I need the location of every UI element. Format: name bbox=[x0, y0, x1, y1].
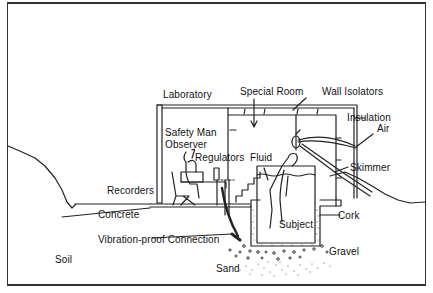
ground-left-hill bbox=[8, 146, 150, 208]
label-regulators: Regulators bbox=[195, 153, 244, 163]
label-special-room: Special Room bbox=[240, 87, 303, 97]
label-air: Air bbox=[377, 124, 390, 134]
sand-dots bbox=[240, 262, 331, 277]
desk bbox=[181, 172, 203, 182]
label-insulation: Insulation bbox=[347, 113, 391, 123]
label-laboratory: Laboratory bbox=[163, 90, 212, 100]
chair bbox=[172, 172, 195, 205]
subject-figure bbox=[270, 154, 297, 229]
label-fluid: Fluid bbox=[250, 153, 272, 163]
label-gravel: Gravel bbox=[329, 247, 359, 257]
label-sand: Sand bbox=[216, 264, 240, 274]
regulators-box bbox=[214, 168, 219, 180]
label-wall-isolators: Wall Isolators bbox=[322, 87, 383, 97]
label-safety-man: Safety Man bbox=[165, 128, 217, 138]
gravel-sand bbox=[229, 245, 328, 261]
label-recorders: Recorders bbox=[107, 186, 154, 196]
tank-inner bbox=[257, 166, 315, 243]
label-cork: Cork bbox=[338, 211, 360, 221]
isolation-tank-diagram bbox=[0, 0, 433, 293]
label-observer: Observer bbox=[165, 140, 207, 150]
label-subject: Subject bbox=[279, 220, 313, 230]
ground-right-hill bbox=[330, 172, 425, 203]
label-vibration-proof-connection: Vibration-proof Connection bbox=[98, 235, 219, 245]
label-soil: Soil bbox=[55, 255, 72, 265]
laboratory-wall bbox=[157, 105, 162, 203]
floor-slab bbox=[150, 204, 251, 207]
label-skimmer: Skimmer bbox=[350, 163, 390, 173]
label-concrete: Concrete bbox=[98, 210, 139, 220]
